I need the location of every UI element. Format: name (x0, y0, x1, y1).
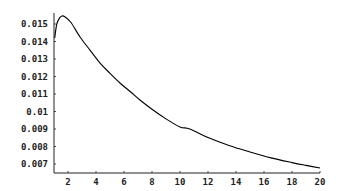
x-tick-label: 18 (287, 177, 298, 187)
x-tick-label: 4 (93, 177, 99, 187)
y-tick-label: 0.008 (21, 142, 48, 152)
x-tick-label: 8 (149, 177, 154, 187)
y-tick-label: 0.01 (26, 107, 48, 117)
y-axis: 0.0070.0080.0090.010.0110.0120.0130.0140… (21, 13, 56, 173)
x-tick-label: 12 (203, 177, 214, 187)
y-tick-label: 0.007 (21, 159, 48, 169)
y-tick-label: 0.013 (21, 54, 48, 64)
series-line (55, 16, 320, 168)
x-tick-label: 20 (315, 177, 326, 187)
x-tick-label: 6 (121, 177, 126, 187)
x-tick-label: 2 (65, 177, 70, 187)
y-tick-label: 0.011 (21, 89, 48, 99)
y-tick-label: 0.014 (21, 37, 49, 47)
line-chart: 0.0070.0080.0090.010.0110.0120.0130.0140… (0, 0, 347, 191)
plot-area (55, 16, 320, 168)
x-axis: 2468101214161820 (54, 171, 325, 187)
x-tick-label: 10 (175, 177, 186, 187)
y-tick-label: 0.012 (21, 72, 48, 82)
x-tick-label: 14 (231, 177, 242, 187)
x-tick-label: 16 (259, 177, 270, 187)
y-tick-label: 0.009 (21, 124, 48, 134)
y-tick-label: 0.015 (21, 19, 48, 29)
